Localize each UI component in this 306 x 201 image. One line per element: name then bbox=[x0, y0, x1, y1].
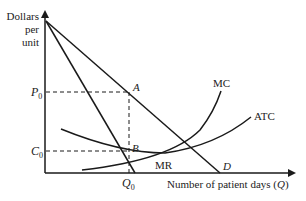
point-b-label: B bbox=[132, 142, 139, 154]
q0-tick-label: Q0 bbox=[122, 176, 135, 192]
average-total-cost-curve bbox=[61, 117, 251, 153]
marginal-cost-curve bbox=[82, 91, 221, 170]
atc-label: ATC bbox=[254, 110, 275, 122]
monopoly-diagram: Dollars per unit P0 C0 Q0 A B MC ATC MR … bbox=[0, 0, 306, 201]
y-axis-label-line3: unit bbox=[22, 36, 39, 48]
y-axis-label-line2: per bbox=[25, 23, 39, 35]
marginal-revenue-curve bbox=[46, 21, 135, 173]
demand-label: D bbox=[222, 160, 231, 172]
c0-tick-label: C0 bbox=[31, 144, 43, 160]
y-axis-label-line1: Dollars bbox=[7, 10, 39, 22]
x-axis-label: Number of patient days (Q) bbox=[167, 178, 289, 191]
mr-label: MR bbox=[155, 159, 173, 171]
p0-tick-label: P0 bbox=[30, 85, 42, 101]
point-a-label: A bbox=[132, 81, 140, 93]
mc-label: MC bbox=[213, 77, 230, 89]
